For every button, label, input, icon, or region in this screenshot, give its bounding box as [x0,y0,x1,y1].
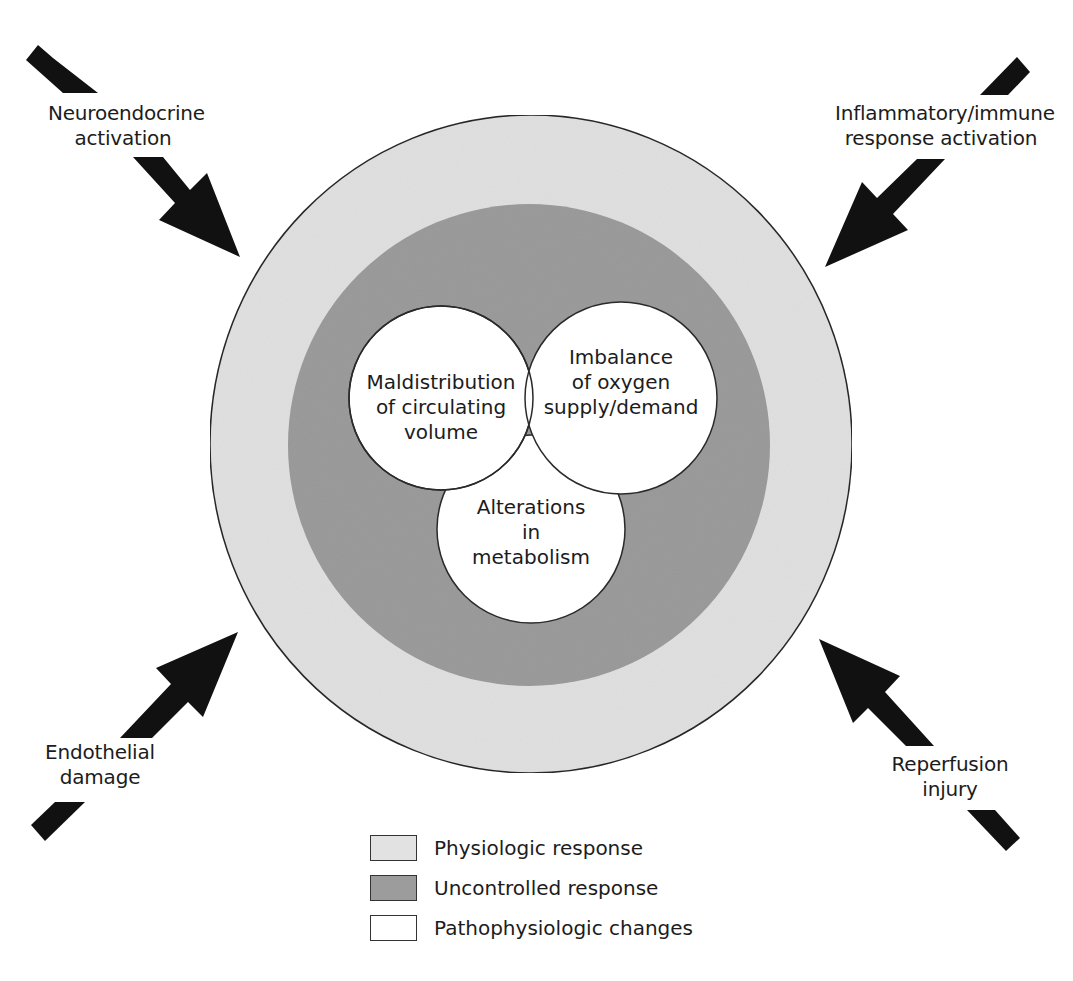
label-line: in [472,520,590,545]
label-line: response activation [835,126,1047,151]
label-line: damage [40,765,160,790]
endothelial-damage-label: Endothelial damage [40,740,160,790]
label-line: volume [366,420,515,445]
alterations-metabolism-label: Alterations in metabolism [472,495,590,570]
label-line: metabolism [472,545,590,570]
reperfusion-injury-arrow-icon [819,639,1020,851]
maldistribution-label: Maldistribution of circulating volume [366,370,515,445]
label-line: of circulating [366,395,515,420]
legend-label: Uncontrolled response [434,876,658,900]
shock-pathophysiology-diagram: Neuroendocrine activation Inflammatory/i… [0,0,1073,981]
label-line: injury [890,777,1010,802]
label-line: Endothelial [40,740,160,765]
legend-item-pathophysiologic: Pathophysiologic changes [370,908,693,948]
legend-swatch-white [370,915,417,941]
legend-label: Pathophysiologic changes [434,916,693,940]
inflammatory-response-label: Inflammatory/immune response activation [835,101,1047,151]
label-line: Reperfusion [890,752,1010,777]
label-line: Alterations [472,495,590,520]
endothelial-damage-arrow-icon [31,632,238,841]
label-line: Inflammatory/immune [835,101,1047,126]
label-line: Neuroendocrine [48,101,198,126]
legend-swatch-dark-gray [370,875,417,901]
legend: Physiologic response Uncontrolled respon… [370,828,693,948]
label-line: activation [48,126,198,151]
inflammatory-arrow-icon [825,57,1030,267]
label-line: of oxygen [544,370,699,395]
label-line: Imbalance [544,345,699,370]
legend-swatch-light-gray [370,835,417,861]
neuroendocrine-activation-label: Neuroendocrine activation [48,101,198,151]
legend-item-uncontrolled: Uncontrolled response [370,868,693,908]
label-line: Maldistribution [366,370,515,395]
neuroendocrine-arrow-icon [26,45,240,257]
legend-item-physiologic: Physiologic response [370,828,693,868]
legend-label: Physiologic response [434,836,643,860]
oxygen-imbalance-label: Imbalance of oxygen supply/demand [544,345,699,420]
reperfusion-injury-label: Reperfusion injury [890,752,1010,802]
label-line: supply/demand [544,395,699,420]
